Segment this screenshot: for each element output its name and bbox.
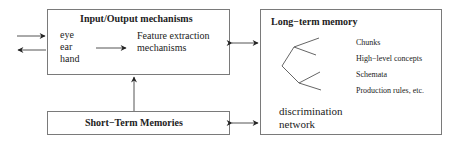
diagram-connectors [0, 0, 455, 142]
discrimination-network-tree [282, 38, 321, 90]
